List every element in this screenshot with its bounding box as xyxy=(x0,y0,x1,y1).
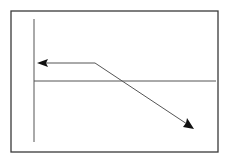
kinked-line xyxy=(44,63,187,124)
down-right-arrowhead-icon xyxy=(183,118,194,129)
diagram-canvas xyxy=(0,0,225,160)
